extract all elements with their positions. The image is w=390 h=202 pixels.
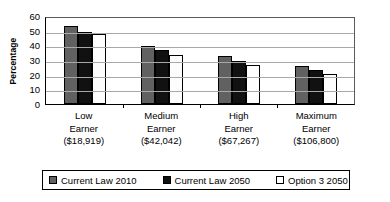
gridline [46, 33, 354, 34]
y-axis-tick-label: 60 [29, 12, 40, 22]
bar [218, 56, 232, 104]
bar [309, 70, 323, 104]
bar [246, 65, 260, 104]
x-axis-tick [123, 104, 124, 108]
category-label-line: Earner [200, 123, 278, 136]
category-label-line: Earner [45, 123, 123, 136]
bar [64, 26, 78, 104]
bar [92, 34, 106, 104]
category-label-line: ($106,800) [278, 135, 356, 148]
chart-legend: Current Law 2010 Current Law 2050 Option… [42, 170, 350, 190]
category-label-line: High [200, 110, 278, 123]
gridline [46, 77, 354, 78]
y-axis-tick-label: 50 [29, 27, 40, 37]
bar-chart: Percentage 6050403020100 LowEarner($18,9… [0, 0, 390, 202]
legend-swatch-icon [49, 176, 57, 184]
legend-swatch-icon [276, 176, 284, 184]
category-label-line: Earner [123, 123, 201, 136]
category-label-line: ($42,042) [123, 135, 201, 148]
category-label-line: ($67,267) [200, 135, 278, 148]
x-axis-category-label: HighEarner($67,267) [200, 110, 278, 158]
legend-label: Current Law 2010 [61, 175, 137, 186]
y-axis-tick-label: 20 [29, 71, 40, 81]
x-axis-category-labels: LowEarner($18,919)MediumEarner($42,042)H… [45, 110, 355, 158]
category-label-line: Maximum [278, 110, 356, 123]
y-axis-tick-label: 0 [35, 100, 40, 110]
legend-item-current-law-2010: Current Law 2010 [49, 175, 137, 186]
bar [323, 74, 337, 104]
gridline [46, 62, 354, 63]
gridline [46, 91, 354, 92]
legend-swatch-icon [163, 176, 171, 184]
legend-label: Current Law 2050 [175, 175, 251, 186]
y-axis-tick-label: 30 [29, 56, 40, 66]
legend-item-option-3-2050: Option 3 2050 [276, 175, 348, 186]
category-label-line: Medium [123, 110, 201, 123]
x-axis-tick [200, 104, 201, 108]
category-label-line: ($18,919) [45, 135, 123, 148]
category-label-line: Low [45, 110, 123, 123]
legend-label: Option 3 2050 [288, 175, 348, 186]
x-axis-tick [277, 104, 278, 108]
y-axis-tick-label: 10 [29, 85, 40, 95]
x-axis-category-label: LowEarner($18,919) [45, 110, 123, 158]
bar [78, 32, 92, 104]
plot-area [45, 17, 355, 105]
gridline [46, 47, 354, 48]
bar [141, 46, 155, 104]
legend-item-current-law-2050: Current Law 2050 [163, 175, 251, 186]
y-axis-tick-labels: 6050403020100 [18, 13, 40, 109]
y-axis-tick-label: 40 [29, 41, 40, 51]
x-axis-category-label: MaximumEarner($106,800) [278, 110, 356, 158]
x-axis-category-label: MediumEarner($42,042) [123, 110, 201, 158]
category-label-line: Earner [278, 123, 356, 136]
bar [232, 61, 246, 104]
bar [295, 66, 309, 104]
